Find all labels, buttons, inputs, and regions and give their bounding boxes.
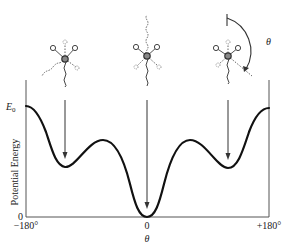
carbon-atom-icon [225,53,231,59]
chain-back-icon [42,59,65,76]
chain-front-icon [227,56,229,84]
hydrogen-atom-back-icon [226,40,230,44]
hydrogen-atom-icon [72,45,77,50]
hydrogen-atom-icon [213,45,218,50]
molecule-gauche-right [213,14,252,84]
x-tick-zero: 0 [145,220,150,231]
arrowhead-icon [226,153,231,160]
x-tick-plus-180: +180° [257,220,282,231]
potential-energy-diagram: θ E0 0 Potential Energy −180° 0 +180° θ [0,0,292,252]
chain-front-icon [64,59,66,87]
torsion-reference-line [228,56,252,76]
x-tick-minus-180: −180° [14,220,39,231]
hydrogen-atom-icon [235,45,240,50]
y-tick-e0: E0 [5,101,16,114]
hydrogen-atom-back-icon [157,65,161,69]
arc-arrowhead-icon [243,66,249,72]
hydrogen-atom-icon [154,44,159,49]
arrowhead-icon [145,202,150,209]
molecule-anti-center [133,15,161,86]
theta-angle-label: θ [266,36,271,47]
arrowhead-icon [63,152,68,159]
pointer-arrows [63,100,231,209]
molecule-gauche-left [42,40,79,87]
hydrogen-atom-back-icon [134,65,138,69]
hydrogen-atom-back-icon [63,40,67,44]
hydrogen-atom-back-icon [216,63,220,67]
chain-back-icon [146,15,148,56]
y-tick-e0-subscript: 0 [12,106,16,114]
carbon-atom-icon [144,53,150,59]
hydrogen-atom-icon [133,44,138,49]
hydrogen-atom-back-icon [75,66,79,70]
carbon-atom-icon [62,56,68,62]
chain-front-icon [146,56,148,86]
y-tick-e0-letter: E [5,101,12,112]
hydrogen-atom-icon [50,45,55,50]
x-axis-label: θ [145,233,150,244]
theta-arc-icon [227,18,251,69]
y-axis-label: Potential Energy [9,139,20,206]
